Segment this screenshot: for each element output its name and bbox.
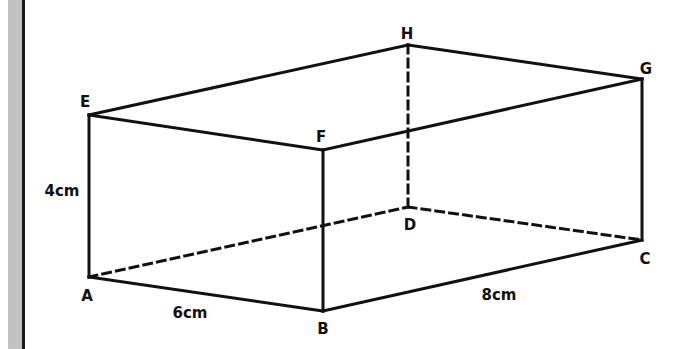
vertex-label-B: B bbox=[317, 320, 328, 338]
vertex-label-D: D bbox=[404, 216, 416, 234]
vertex-label-G: G bbox=[640, 60, 652, 78]
edge-DC-hidden bbox=[408, 207, 642, 240]
vertex-label-E: E bbox=[80, 93, 90, 111]
edge-EF bbox=[89, 115, 323, 150]
vertex-label-F: F bbox=[316, 128, 326, 146]
edge-GH bbox=[408, 45, 642, 79]
cuboid-diagram: A B C D E F G H 4cm 6cm 8cm bbox=[0, 0, 691, 349]
edge-AD-hidden bbox=[89, 207, 408, 277]
measurement-height: 4cm bbox=[45, 182, 80, 200]
measurement-width: 6cm bbox=[173, 304, 208, 322]
vertex-label-A: A bbox=[81, 287, 93, 305]
vertex-label-H: H bbox=[401, 25, 414, 43]
edge-HE bbox=[89, 45, 408, 115]
measurement-length: 8cm bbox=[482, 286, 517, 304]
edge-FG bbox=[323, 79, 642, 150]
vertex-label-C: C bbox=[639, 250, 650, 268]
